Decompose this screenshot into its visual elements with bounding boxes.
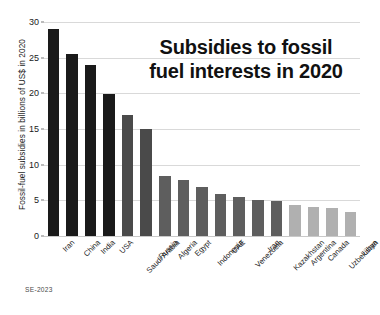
bar [140,129,152,236]
y-tick-label-25: 25 [29,53,39,63]
bar [215,194,227,236]
bar [159,176,171,236]
y-tick-label-15: 15 [29,124,39,134]
bar [48,29,60,236]
bar [85,65,97,236]
bar [122,115,134,236]
y-tick-label-10: 10 [29,160,39,170]
bar [66,54,78,236]
chart-title: Subsidies to fossilfuel interests in 202… [128,36,364,83]
chart-title-line-1: Subsidies to fossil [128,36,364,60]
gridline-0 [44,236,360,237]
bar [271,201,283,236]
bar [326,208,338,236]
x-tick-label: Iran [61,238,77,254]
bar [252,200,264,236]
x-tick-label: India [99,238,117,256]
bar [103,94,115,236]
x-axis-tick-labels: IranChinaIndiaUSASaudi ArabiaRussiaAlger… [44,238,360,300]
x-tick-label: USA [118,238,135,255]
bar [178,180,190,236]
bar [233,197,245,236]
bar [308,207,320,236]
y-tick-label-0: 0 [34,231,39,241]
bar [196,187,208,236]
y-tick-label-20: 20 [29,88,39,98]
chart-title-line-2: fuel interests in 2020 [128,60,364,84]
y-axis-title: Fossil-fuel subsidies in billions of US$… [18,25,27,225]
credit-label: SE-2023 [25,286,53,293]
bar [345,212,357,236]
y-tick-label-5: 5 [34,195,39,205]
y-tick-label-30: 30 [29,17,39,27]
bar [289,205,301,236]
